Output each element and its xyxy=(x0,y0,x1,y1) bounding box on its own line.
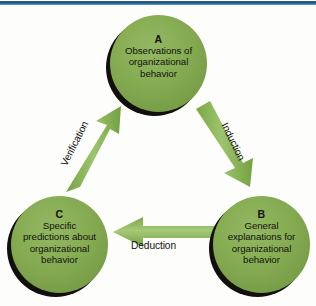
node-b-letter: B xyxy=(217,208,306,220)
node-b-line-3: organizational xyxy=(217,243,306,254)
node-c-line-2: predictions about xyxy=(15,231,104,242)
edge-label-deduction: Deduction xyxy=(131,240,176,251)
node-b[interactable]: B General explanations for organizationa… xyxy=(213,196,310,293)
node-a[interactable]: A Observations of organizational behavio… xyxy=(110,15,207,112)
arrow-induction xyxy=(196,101,253,187)
node-a-line-2: organizational xyxy=(114,56,203,67)
node-a-letter: A xyxy=(114,33,203,45)
node-c-line-4: behavior xyxy=(15,254,104,265)
node-b-line-1: General xyxy=(217,220,306,231)
node-c-line-1: Specific xyxy=(15,220,104,231)
node-c-letter: C xyxy=(15,208,104,220)
node-c[interactable]: C Specific predictions about organizatio… xyxy=(11,196,108,293)
diagram-figure: A Observations of organizational behavio… xyxy=(0,0,316,306)
node-b-line-2: explanations for xyxy=(217,231,306,242)
node-b-line-4: behavior xyxy=(217,254,306,265)
node-a-line-3: behavior xyxy=(114,68,203,79)
node-c-line-3: organizational xyxy=(15,243,104,254)
node-a-line-1: Observations of xyxy=(114,45,203,56)
